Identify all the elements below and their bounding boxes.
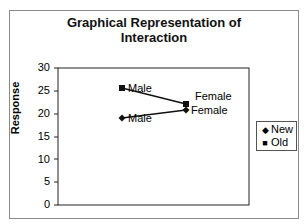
legend-label-new: New: [271, 123, 293, 135]
point-label-new-female: Female: [191, 104, 228, 116]
legend-label-old: Old: [271, 136, 288, 148]
legend: ◆New ■Old: [256, 121, 297, 151]
point-label-old-male: Male: [128, 82, 152, 94]
point-label-old-female: Female: [195, 90, 232, 102]
new-male-marker: [119, 115, 126, 122]
old-male-marker: [119, 85, 125, 91]
old-female-marker: [183, 101, 189, 107]
point-label-new-male: Male: [128, 112, 152, 124]
plot-area: [0, 0, 304, 224]
new-female-marker: [183, 107, 190, 114]
square-marker-icon: ■: [260, 137, 270, 150]
y-axis-ticks: [54, 68, 58, 205]
legend-item-old: ■Old: [260, 136, 288, 149]
legend-item-new: ◆New: [260, 123, 293, 136]
